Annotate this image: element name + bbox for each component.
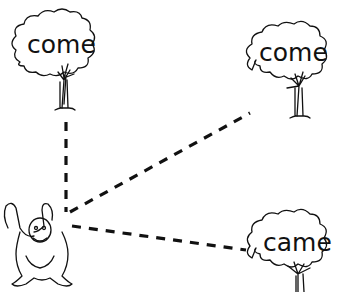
dashed-connectors [66, 113, 250, 250]
connector-line-to-bottom-right-tree [72, 226, 246, 250]
monkey-icon [4, 203, 72, 286]
tree-word-bottom-right[interactable]: came [263, 230, 332, 255]
tree-icon [12, 9, 95, 110]
tree-word-top-left[interactable]: come [27, 32, 96, 57]
tree-icon [246, 21, 326, 118]
connector-line-to-top-right-tree [70, 113, 250, 212]
tree-word-top-right[interactable]: come [259, 40, 328, 65]
